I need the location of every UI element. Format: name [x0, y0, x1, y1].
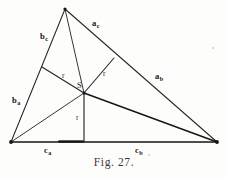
label-side-a-b: ab	[155, 72, 163, 81]
incenter-dot	[83, 92, 86, 95]
label-side-a-c: ac	[92, 19, 99, 28]
bisector-from-left-vertex	[11, 93, 84, 142]
vertex-left-dot	[9, 140, 13, 144]
base-ink-blot	[58, 140, 84, 143]
label-incenter-s: S	[77, 81, 82, 90]
label-side-c-a: ca	[44, 146, 51, 155]
figure-27: ac ab bc ba ca cb r r r S Fig. 27.	[0, 0, 228, 178]
label-side-b-c: bc	[40, 32, 48, 41]
label-radius-bottom: r	[76, 114, 79, 122]
label-side-b-a: ba	[12, 96, 20, 105]
side-a-edge-right	[65, 9, 217, 142]
side-b-edge-left	[11, 9, 65, 142]
triangle-outline	[11, 9, 217, 142]
label-radius-left: r	[62, 72, 65, 80]
inradius-to-right-side	[84, 58, 114, 93]
figure-caption: Fig. 27.	[0, 156, 228, 168]
bisector-from-right-vertex	[84, 93, 217, 142]
geometry-drawing	[0, 0, 228, 178]
vertex-right-dot	[215, 140, 219, 144]
label-radius-right: r	[103, 70, 106, 78]
vertex-markers	[9, 7, 219, 144]
scan-speck-right	[212, 47, 214, 49]
bisector-lines	[11, 9, 217, 142]
vertex-apex-dot	[63, 7, 66, 10]
label-side-c-b: cb	[135, 146, 142, 155]
